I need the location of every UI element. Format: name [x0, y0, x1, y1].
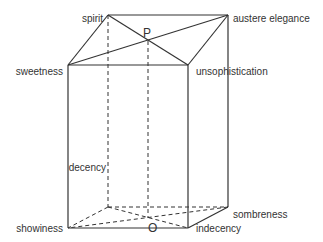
label-point-P: P — [143, 26, 151, 40]
label-sweetness: sweetness — [16, 66, 63, 77]
cube-diagram: spirit austere elegance sweetness unsoph… — [0, 0, 323, 242]
label-decency: decency — [69, 162, 106, 173]
label-point-O: O — [148, 221, 157, 235]
label-spirit: spirit — [82, 13, 103, 24]
label-sombreness: sombreness — [233, 209, 287, 220]
label-unsophistication: unsophistication — [196, 66, 268, 77]
label-indecency: indecency — [196, 223, 241, 234]
hidden-edges — [68, 15, 228, 228]
label-austere-elegance: austere elegance — [233, 13, 310, 24]
edge-decency-showiness — [68, 207, 108, 228]
label-showiness: showiness — [16, 223, 63, 234]
edge-austere-unsophistication — [188, 15, 228, 65]
